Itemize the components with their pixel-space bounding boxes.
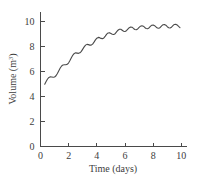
y-axis-title: Volume (m	[7, 60, 19, 105]
svg-text:Volume (m3): Volume (m3)	[7, 53, 20, 104]
y-tick-label-0: 0	[30, 141, 35, 152]
x-tick-label-8: 8	[151, 150, 156, 161]
x-tick-label-10: 10	[176, 150, 186, 161]
chart-figure: 0246810 0246810 Time (days) Volume (m3)	[0, 0, 201, 184]
x-tick-label-4: 4	[94, 150, 99, 161]
y-tick-label-8: 8	[30, 41, 35, 52]
y-tick-label-2: 2	[30, 116, 35, 127]
volume-vs-time-line-chart: 0246810 0246810 Time (days) Volume (m3)	[0, 0, 201, 184]
y-tick-label-4: 4	[30, 91, 35, 102]
x-tick-label-0: 0	[38, 150, 43, 161]
x-tick-label-2: 2	[66, 150, 71, 161]
x-tick-label-6: 6	[123, 150, 128, 161]
x-axis-title: Time (days)	[89, 163, 137, 175]
volume-series-line	[45, 24, 180, 84]
x-axis-tickmarks	[69, 143, 182, 147]
y-axis-tickmarks	[41, 22, 45, 147]
y-tick-label-6: 6	[30, 66, 35, 77]
y-tick-label-10: 10	[25, 16, 35, 27]
y-axis-tick-labels: 0246810	[25, 16, 35, 152]
y-axis-title-tail: )	[7, 53, 19, 56]
x-axis-tick-labels: 0246810	[38, 150, 186, 161]
y-axis-title-group: Volume (m3)	[7, 53, 20, 104]
